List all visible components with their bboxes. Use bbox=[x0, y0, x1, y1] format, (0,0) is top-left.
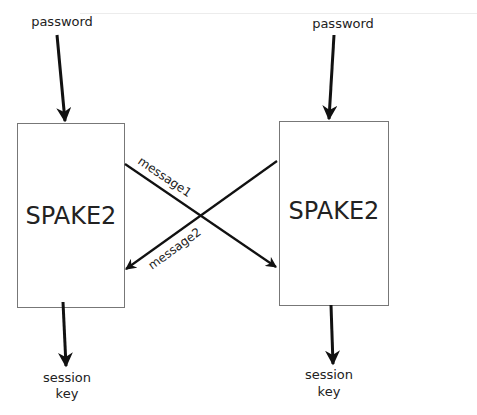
right-session-key-arrow bbox=[331, 305, 333, 364]
left-password-arrow bbox=[57, 35, 65, 121]
right-session-label: session bbox=[305, 367, 353, 382]
spake2-diagram: password SPAKE2 session key password SPA… bbox=[0, 0, 477, 415]
left-key-label: key bbox=[56, 386, 79, 401]
left-password-label: password bbox=[31, 14, 93, 29]
right-key-label: key bbox=[318, 384, 341, 399]
right-password-arrow bbox=[329, 35, 334, 119]
left-spake2-label: SPAKE2 bbox=[26, 202, 117, 230]
right-password-label: password bbox=[312, 16, 374, 31]
left-session-key-arrow bbox=[63, 302, 66, 366]
right-spake2-label: SPAKE2 bbox=[289, 197, 380, 225]
left-session-label: session bbox=[43, 370, 91, 385]
